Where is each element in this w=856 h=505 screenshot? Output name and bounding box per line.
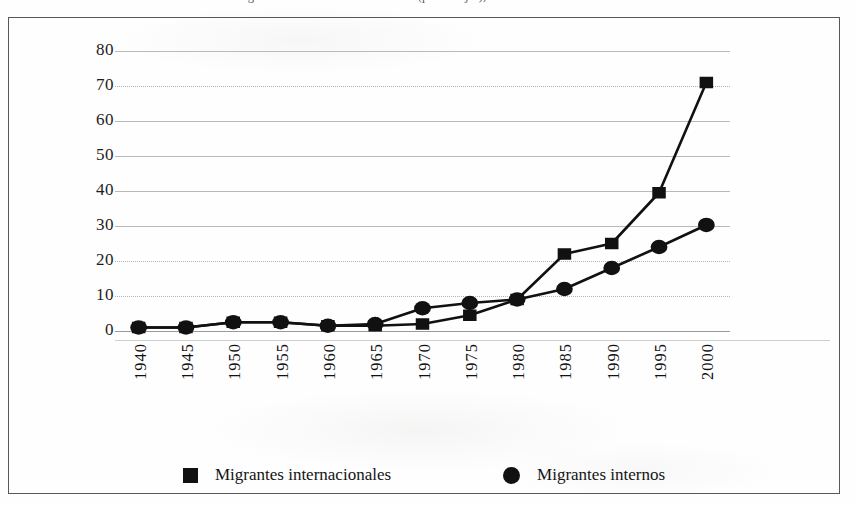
y-axis-tick-0: 0	[54, 320, 114, 340]
gridline-70	[115, 86, 730, 87]
x-axis-tick-1990: 1990	[604, 343, 620, 380]
x-axis-tick-1970: 1970	[415, 343, 431, 380]
legend-label-0: Migrantes internacionales	[215, 465, 391, 485]
x-axis-tick-1965: 1965	[367, 343, 383, 380]
y-axis-tick-80: 80	[54, 40, 114, 60]
x-axis-tick-2000: 2000	[698, 343, 714, 380]
x-axis-baseline-extension	[115, 340, 830, 341]
gridline-10	[115, 296, 730, 297]
x-axis-tick-1980: 1980	[509, 343, 525, 380]
y-axis-tick-10: 10	[54, 285, 114, 305]
gridline-50	[115, 156, 730, 157]
figure-caption-cropped: Gráfica 1. Migrantes internos e internac…	[0, 0, 856, 14]
y-axis-tick-20: 20	[54, 250, 114, 270]
figure-caption-text: Gráfica 1. Migrantes internos e internac…	[180, 0, 543, 4]
square-marker-icon	[183, 468, 198, 483]
x-axis-tick-1945: 1945	[178, 343, 194, 380]
y-axis-tick-70: 70	[54, 75, 114, 95]
x-axis-tick-1995: 1995	[651, 343, 667, 380]
x-axis-tick-1955: 1955	[273, 343, 289, 380]
circle-marker-icon	[503, 467, 520, 484]
y-axis-tick-40: 40	[54, 180, 114, 200]
gridline-40	[115, 191, 730, 192]
x-axis-tick-1985: 1985	[556, 343, 572, 380]
chart-legend: Migrantes internacionales Migrantes inte…	[8, 455, 840, 495]
x-axis-baseline	[115, 331, 730, 332]
gridline-80	[115, 51, 730, 52]
y-axis-tick-30: 30	[54, 215, 114, 235]
gridline-60	[115, 121, 730, 122]
gridline-20	[115, 261, 730, 262]
plot-area	[115, 51, 730, 331]
x-axis-tick-1950: 1950	[225, 343, 241, 380]
y-axis-tick-50: 50	[54, 145, 114, 165]
legend-item-migrantes-internos[interactable]: Migrantes internos	[503, 465, 665, 485]
y-axis-tick-60: 60	[54, 110, 114, 130]
legend-label-1: Migrantes internos	[537, 465, 665, 485]
legend-item-migrantes-internacionales[interactable]: Migrantes internacionales	[183, 465, 391, 485]
gridline-30	[115, 226, 730, 227]
x-axis-tick-1960: 1960	[320, 343, 336, 380]
x-axis-tick-1940: 1940	[131, 343, 147, 380]
x-axis-tick-1975: 1975	[462, 343, 478, 380]
